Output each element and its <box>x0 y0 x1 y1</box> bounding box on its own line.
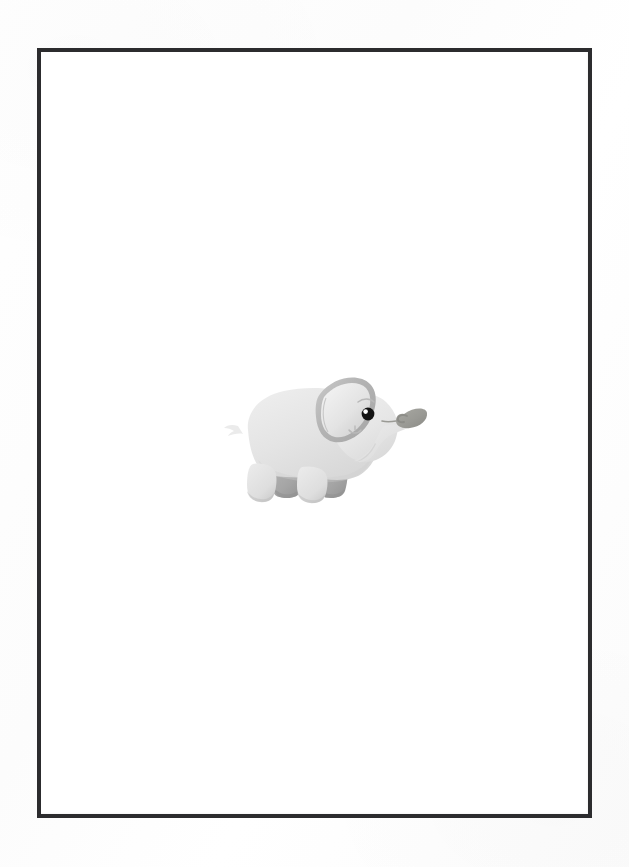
page-canvas: Cartoon baby elephant facing right insid… <box>0 0 629 867</box>
tail <box>224 425 243 436</box>
eye-highlight <box>363 409 368 414</box>
trunk-tip-leaf <box>396 409 427 429</box>
eye <box>362 408 375 421</box>
border-frame <box>37 48 592 818</box>
elephant-illustration <box>218 364 428 512</box>
trunk-tip-stem <box>382 421 396 422</box>
tail-shape <box>224 425 243 436</box>
